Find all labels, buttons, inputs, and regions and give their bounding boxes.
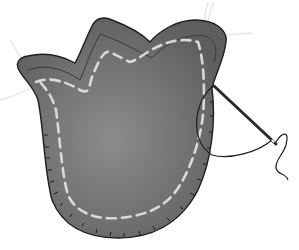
illustration: Illustration of a grey felt tulip-shaped… — [0, 0, 299, 250]
felt-tulip-drawing — [0, 0, 299, 250]
sewing-needle-icon — [214, 86, 276, 144]
felt-tulip-body — [17, 18, 226, 238]
thread-tail — [276, 134, 288, 180]
